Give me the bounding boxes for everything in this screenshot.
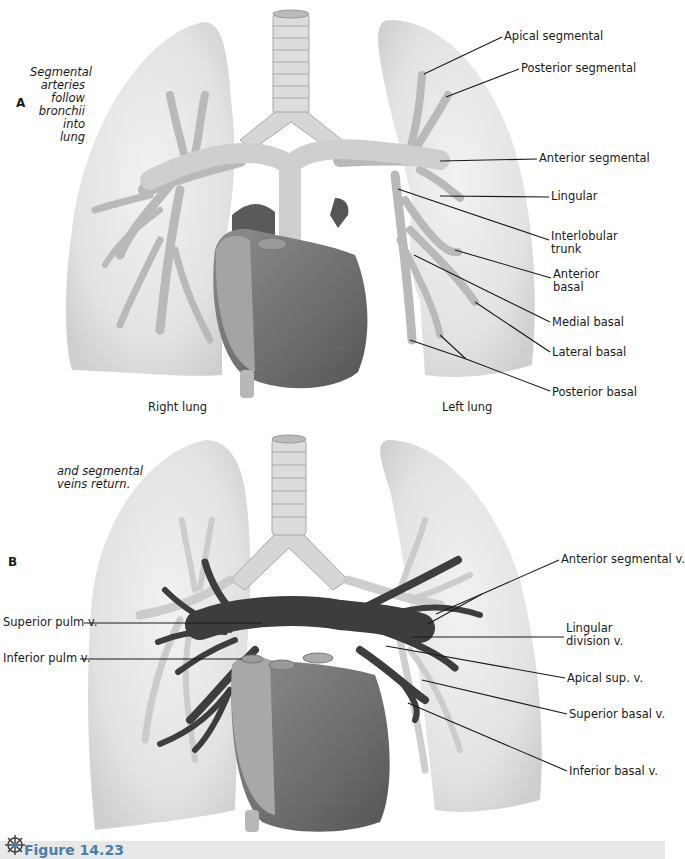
annotation-label: Superior basal v.: [569, 708, 665, 721]
left-lung-label: Left lung: [442, 400, 492, 414]
caption-line: veins return.: [57, 478, 143, 491]
panel-b-letter: B: [8, 555, 17, 569]
panel-b-drawing: [88, 435, 542, 832]
panel-a-letter: A: [16, 96, 25, 110]
right-lung-label: Right lung: [148, 400, 207, 414]
annotation-label: Lingulardivision v.: [566, 622, 623, 648]
heart-b: [231, 653, 389, 832]
annotation-label: Posterior segmental: [521, 62, 636, 75]
annotation-label: Inferior pulm v.: [3, 652, 90, 665]
annotation-label: Superior pulm v.: [3, 616, 98, 629]
annotation-label: Anterior segmental: [539, 152, 650, 165]
trachea-a: [240, 10, 342, 150]
panel-b-caption: and segmental veins return.: [57, 465, 143, 491]
annotation-label: Anterior segmental v.: [561, 553, 685, 566]
annotation-label: Inferior basal v.: [569, 765, 658, 778]
caption-line: lung: [30, 131, 85, 144]
annotation-label: Posterior basal: [552, 386, 637, 399]
panel-a-caption: Segmental arteries follow bronchii into …: [30, 66, 85, 144]
annotation-label: Lateral basal: [552, 346, 626, 359]
annotation-label: Medial basal: [552, 316, 624, 329]
panel-a-drawing: [66, 10, 535, 398]
annotation-label: Lingular: [551, 190, 597, 203]
trachea-b: [230, 435, 348, 590]
annotation-label: Anteriorbasal: [553, 268, 599, 294]
annotation-label: Apical sup. v.: [567, 672, 643, 685]
figure-number: Figure 14.23: [24, 841, 124, 859]
annotation-label: Apical segmental: [504, 30, 603, 43]
atom-burst-icon: [4, 833, 26, 855]
annotation-label: Interlobulartrunk: [551, 230, 618, 256]
